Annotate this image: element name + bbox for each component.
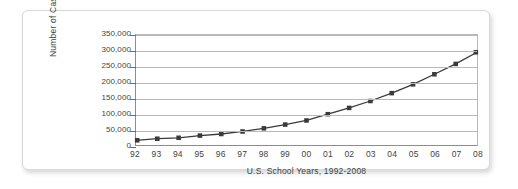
y-axis-tick: [130, 131, 136, 132]
data-point-marker: [453, 62, 458, 67]
y-axis-tick: [130, 83, 136, 84]
data-point-marker: [347, 106, 352, 111]
gridline: [136, 83, 477, 84]
y-axis-tick-label: 350,000: [101, 30, 131, 38]
gridline: [136, 35, 477, 36]
x-axis-tick-label: 96: [211, 150, 231, 159]
y-axis-tick: [130, 99, 136, 100]
x-axis-tick-label: 08: [468, 150, 488, 159]
x-axis-tick-label: 98: [254, 150, 274, 159]
gridline: [136, 51, 477, 52]
series-line-path: [136, 52, 477, 140]
y-axis-tick: [130, 67, 136, 68]
gridline: [136, 115, 477, 116]
y-axis-tick: [130, 115, 136, 116]
x-axis-tick-label: 95: [189, 150, 209, 159]
x-axis-tick-label: 92: [125, 150, 145, 159]
x-axis-tick-label: 01: [318, 150, 338, 159]
data-point-marker: [389, 91, 394, 96]
x-axis-tick-label: 03: [361, 150, 381, 159]
chart-card: Number of Cases 050,000100,000150,000200…: [22, 10, 490, 170]
y-axis-tick: [130, 147, 136, 148]
data-point-marker: [135, 138, 140, 143]
series-markers: [135, 50, 478, 143]
chart-figure: Number of Cases 050,000100,000150,000200…: [0, 0, 518, 189]
x-axis-tick-label: 99: [275, 150, 295, 159]
x-axis-tick-label: 07: [447, 150, 467, 159]
data-point-marker: [176, 136, 181, 141]
plot-area: [135, 34, 478, 146]
data-point-marker: [198, 133, 203, 138]
y-axis-tick-label: 250,000: [101, 62, 131, 70]
x-axis-tick-label: 97: [232, 150, 252, 159]
y-axis-tick-label: 100,000: [101, 110, 131, 118]
x-axis-tick-label: 00: [297, 150, 317, 159]
line-series: [136, 35, 477, 145]
x-axis-tick-label: 05: [404, 150, 424, 159]
x-axis-tick-label: 02: [339, 150, 359, 159]
y-axis-tick: [130, 35, 136, 36]
gridline: [136, 67, 477, 68]
x-axis-tick-label: 93: [146, 150, 166, 159]
data-point-marker: [283, 122, 288, 127]
data-point-marker: [432, 72, 437, 77]
gridline: [136, 99, 477, 100]
x-axis-tick-label: 04: [382, 150, 402, 159]
y-axis-tick: [130, 51, 136, 52]
y-axis-tick-label: 200,000: [101, 78, 131, 86]
y-axis-title: Number of Cases: [48, 0, 58, 57]
y-axis-tick-labels: 050,000100,000150,000200,000250,000300,0…: [81, 11, 131, 189]
x-axis-title: U.S. School Years, 1992-2008: [135, 166, 478, 176]
x-axis-tick-label: 94: [168, 150, 188, 159]
data-point-marker: [155, 136, 160, 141]
y-axis-tick-label: 150,000: [101, 94, 131, 102]
data-point-marker: [219, 132, 224, 137]
y-axis-tick-label: 300,000: [101, 46, 131, 54]
gridline: [136, 131, 477, 132]
x-axis-tick-label: 06: [425, 150, 445, 159]
data-point-marker: [304, 118, 309, 123]
y-axis-tick-label: 50,000: [106, 126, 131, 134]
